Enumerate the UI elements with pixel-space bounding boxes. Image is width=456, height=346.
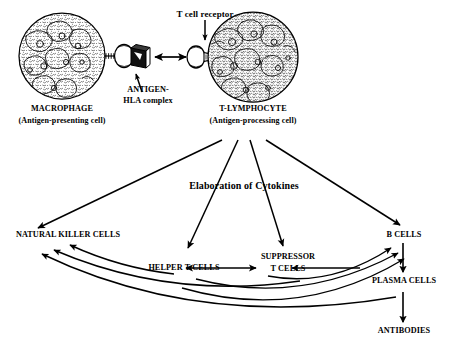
macrophage-sublabel: (Antigen-presenting cell) — [18, 117, 105, 125]
arrow-to-suppressor-t — [250, 140, 283, 246]
macrophage-label: MACROPHAGE — [31, 105, 93, 114]
elaboration-of-cytokines-label: Elaboration of Cytokines — [189, 181, 299, 192]
diagram-canvas — [0, 0, 456, 346]
arrow-to-helper-t — [188, 140, 238, 248]
immunology-diagram: T cell receptor ANTIGEN- HLA complex MAC… — [0, 0, 456, 346]
antigen-hla-complex-box — [131, 45, 150, 69]
antigen-hla-label-line2: HLA complex — [123, 97, 173, 106]
arc-bcells-to-nk — [42, 254, 396, 307]
t-cell-receptor-label: T cell receptor — [176, 10, 233, 19]
suppressor-t-cells-label-line1: SUPPRESSOR — [261, 253, 315, 262]
natural-killer-cells-label: NATURAL KILLER CELLS — [16, 231, 120, 240]
antigen-hla-label-line1: ANTIGEN- — [127, 86, 169, 95]
t-lymphocyte-cell-illustration — [187, 12, 298, 103]
t-lymphocyte-label: T-LYMPHOCYTE — [219, 105, 286, 114]
t-lymphocyte-sublabel: (Antigen-processing cell) — [209, 117, 296, 125]
b-cells-label: B CELLS — [386, 231, 421, 240]
t-cell-receptor-shape — [187, 46, 205, 68]
antibodies-label: ANTIBODIES — [378, 327, 430, 336]
suppressor-t-cells-label-line2: T CELLS — [271, 265, 306, 274]
helper-t-cells-label: HELPER T CELLS — [148, 264, 219, 273]
plasma-cells-label: PLASMA CELLS — [372, 277, 436, 286]
